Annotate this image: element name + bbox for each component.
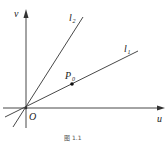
line-l2	[13, 17, 83, 127]
svg-text:2: 2	[73, 18, 76, 24]
u-axis-label: u	[157, 113, 162, 124]
label-l1: l 1	[124, 43, 131, 55]
v-axis-label: v	[14, 8, 19, 19]
coordinate-diagram: v u O l 2 l 1 P 0 图 1.1	[0, 0, 166, 143]
u-axis-arrow-icon	[157, 106, 165, 111]
svg-text:0: 0	[72, 76, 75, 82]
v-axis-arrow-icon	[24, 9, 29, 18]
figure-caption: 图 1.1	[64, 134, 82, 142]
svg-text:1: 1	[128, 49, 131, 55]
svg-text:P: P	[64, 70, 71, 81]
origin-point	[25, 107, 28, 110]
label-p0: P 0	[64, 70, 75, 82]
point-p0	[70, 82, 74, 86]
origin-label: O	[29, 111, 36, 122]
label-l2: l 2	[69, 12, 76, 24]
